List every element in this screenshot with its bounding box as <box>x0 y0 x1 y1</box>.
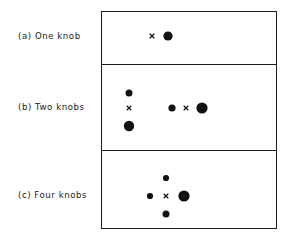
knob-dot <box>163 211 170 218</box>
panel-a-marks <box>150 31 173 40</box>
knob-dot <box>163 175 169 181</box>
panel-b-marks <box>124 90 208 132</box>
knob-diagram-svg <box>0 0 291 247</box>
knob-dot <box>126 90 133 97</box>
knob-dot <box>147 193 153 199</box>
x-marker <box>150 34 155 39</box>
panel-c-marks <box>147 175 190 218</box>
knob-marks-group <box>124 31 208 217</box>
knob-dot <box>124 121 134 131</box>
knob-dot <box>163 31 172 40</box>
x-marker <box>164 194 169 199</box>
x-marker <box>127 106 132 111</box>
knob-dot <box>168 104 175 111</box>
figure-root: (a) One knob (b) Two knobs (c) Four knob… <box>0 0 291 247</box>
x-marker <box>184 106 189 111</box>
knob-dot <box>178 190 189 201</box>
knob-dot <box>196 102 207 113</box>
